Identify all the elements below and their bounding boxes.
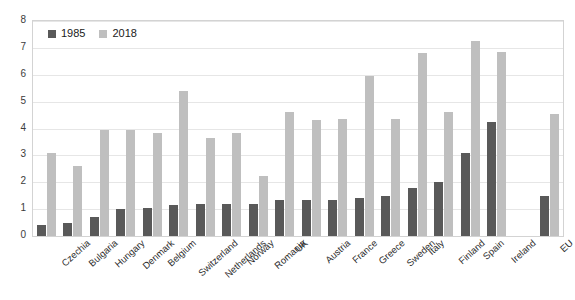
bar-group [139,21,166,236]
bar-group [272,21,299,236]
bar-uk-2018 [285,112,294,236]
bar-belgium-2018 [153,133,162,236]
y-axis-tick-5: 5 [2,96,26,106]
bar-finland-2018 [444,112,453,236]
bar-hungary-2018 [100,130,109,236]
bar-group [325,21,352,236]
bar-sweden-1985 [381,196,390,236]
bar-group [245,21,272,236]
bar-italy-1985 [408,188,417,236]
bar-norway-1985 [222,204,231,236]
bar-france-2018 [338,119,347,236]
bar-uk-1985 [275,200,284,236]
bar-denmark-2018 [126,130,135,236]
y-axis-tick-8: 8 [2,15,26,25]
bar-spain-2018 [471,41,480,236]
x-axis-label-ireland: Ireland [509,238,537,265]
y-axis-tick-1: 1 [2,203,26,213]
bar-group [33,21,60,236]
bar-group [378,21,405,236]
bars-container [33,21,563,236]
legend-swatch-icon [48,30,56,38]
bar-netherlands-2018 [206,138,215,236]
x-axis-label-austria: Austria [324,238,353,265]
legend-label: 2018 [112,28,136,39]
bar-austria-1985 [302,200,311,236]
legend-item-2018: 2018 [99,28,136,39]
y-axis-tick-6: 6 [2,69,26,79]
bar-czechia-1985 [37,225,46,236]
bar-group [431,21,458,236]
bar-group [298,21,325,236]
bar-ireland-2018 [497,52,506,236]
x-axis-label-greece: Greece [377,238,407,266]
bar-romania-1985 [249,204,258,236]
bar-austria-2018 [312,120,321,236]
bar-greece-1985 [355,198,364,236]
y-axis-tick-3: 3 [2,149,26,159]
x-axis-label-france: France [350,238,379,265]
bar-group [192,21,219,236]
bar-belgium-1985 [143,208,152,236]
legend-label: 1985 [61,28,85,39]
y-axis-tick-7: 7 [2,42,26,52]
plot-area [32,20,564,237]
x-axis-label-eu: EU [558,238,575,254]
chart-legend: 19852018 [48,28,137,39]
legend-item-1985: 1985 [48,28,85,39]
bar-czechia-2018 [47,153,56,236]
bar-group [351,21,378,236]
bar-finland-1985 [434,182,443,236]
bar-sweden-2018 [391,119,400,236]
bar-italy-2018 [418,53,427,236]
bar-eu-2018 [550,114,559,236]
x-axis-label-czechia: Czechia [60,238,92,268]
bar-norway-2018 [232,133,241,236]
bar-spain-1985 [461,153,470,236]
x-axis-label-spain: Spain [481,238,506,262]
y-axis: 876543210 [0,12,30,244]
x-axis-labels: CzechiaBulgariaHungaryDenmarkBelgiumSwit… [32,238,564,300]
bar-denmark-1985 [116,209,125,236]
bar-bulgaria-1985 [63,223,72,236]
y-axis-tick-0: 0 [2,230,26,240]
bar-group [537,21,564,236]
bar-france-1985 [328,200,337,236]
y-axis-tick-4: 4 [2,123,26,133]
bar-group [457,21,484,236]
bar-greece-2018 [365,76,374,236]
bar-group [86,21,113,236]
bar-ireland-1985 [487,122,496,236]
bar-hungary-1985 [90,217,99,236]
bar-netherlands-1985 [196,204,205,236]
bar-group [484,21,511,236]
bar-group [166,21,193,236]
bar-group [219,21,246,236]
bar-bulgaria-2018 [73,166,82,236]
bar-eu-1985 [540,196,549,236]
bar-switzerland-2018 [179,91,188,236]
bar-switzerland-1985 [169,205,178,236]
bar-group [113,21,140,236]
bar-group [404,21,431,236]
y-axis-tick-2: 2 [2,176,26,186]
bar-group [60,21,87,236]
bar-romania-2018 [259,176,268,236]
legend-swatch-icon [99,30,107,38]
